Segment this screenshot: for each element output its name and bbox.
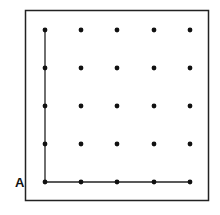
grid-dot: [79, 104, 84, 109]
grid-dot: [188, 142, 193, 147]
grid-dot: [43, 28, 48, 33]
grid-dot: [188, 28, 193, 33]
start-label-a: A: [15, 175, 25, 190]
grid-dot: [152, 28, 157, 33]
grid-dots: [43, 28, 193, 185]
grid-dot: [115, 28, 120, 33]
grid-dot: [188, 180, 193, 185]
grid-dot: [152, 104, 157, 109]
dot-grid-diagram: A: [0, 0, 220, 215]
grid-dot: [79, 180, 84, 185]
grid-dot: [152, 142, 157, 147]
grid-dot: [188, 66, 193, 71]
grid-dot: [152, 66, 157, 71]
grid-dot-a: [43, 180, 48, 185]
grid-dot: [79, 142, 84, 147]
grid-dot: [79, 66, 84, 71]
grid-dot: [43, 104, 48, 109]
grid-dot: [115, 180, 120, 185]
grid-dot: [115, 66, 120, 71]
grid-dot: [115, 104, 120, 109]
grid-dot: [43, 66, 48, 71]
grid-dot: [115, 142, 120, 147]
grid-dot: [43, 142, 48, 147]
grid-dot: [152, 180, 157, 185]
grid-dot: [79, 28, 84, 33]
grid-dot: [188, 104, 193, 109]
